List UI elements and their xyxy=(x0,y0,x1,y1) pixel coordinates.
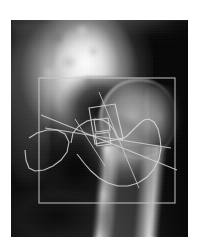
femoral-neck-axis-line-secondary xyxy=(45,128,171,148)
lesser-trochanter-outline xyxy=(25,130,69,171)
figure-title: Hip radiograph with femoral neck geometr… xyxy=(0,21,1,22)
head-diameter-line xyxy=(99,92,139,188)
annotation-overlay xyxy=(11,20,188,237)
region-of-interest-box[interactable] xyxy=(39,78,175,203)
xray-image-panel xyxy=(11,20,188,237)
figure-caption xyxy=(0,16,1,17)
radiograph-figure: Hip radiograph with femoral neck geometr… xyxy=(0,0,198,248)
femoral-head-neck-contour xyxy=(71,119,161,186)
